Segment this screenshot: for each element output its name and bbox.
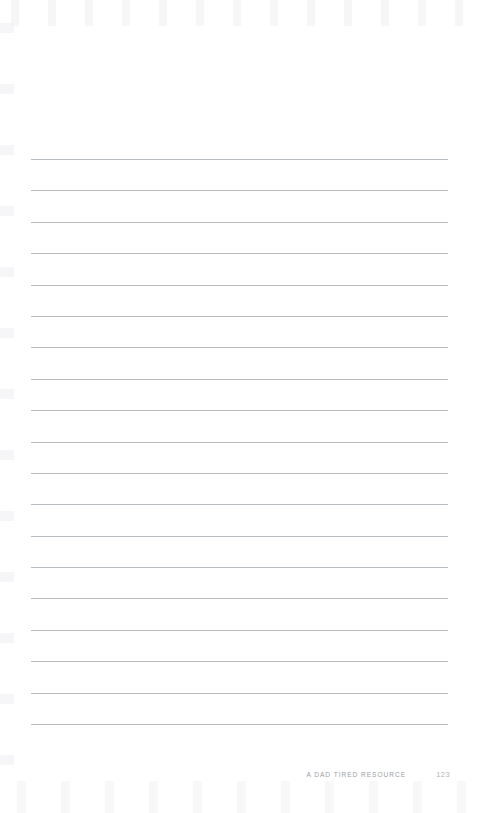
rule-line[interactable]	[31, 316, 448, 317]
page-footer: A DAD TIRED RESOURCE 123	[31, 770, 450, 779]
rule-line[interactable]	[31, 253, 448, 254]
rule-line[interactable]	[31, 536, 448, 537]
footer-resource-label: A DAD TIRED RESOURCE	[307, 771, 406, 778]
rule-line[interactable]	[31, 661, 448, 662]
rule-line[interactable]	[31, 504, 448, 505]
rule-line[interactable]	[31, 222, 448, 223]
ruled-lines-area[interactable]	[31, 159, 448, 725]
rule-line[interactable]	[31, 630, 448, 631]
rule-line[interactable]	[31, 567, 448, 568]
rule-line[interactable]	[31, 347, 448, 348]
rule-line[interactable]	[31, 410, 448, 411]
scan-artifact-bottom	[0, 781, 489, 813]
scan-artifact-top	[0, 0, 489, 26]
rule-line[interactable]	[31, 379, 448, 380]
page-number: 123	[434, 770, 450, 779]
rule-line[interactable]	[31, 724, 448, 725]
scan-artifact-left	[0, 0, 14, 813]
rule-line[interactable]	[31, 693, 448, 694]
rule-line[interactable]	[31, 598, 448, 599]
rule-line[interactable]	[31, 442, 448, 443]
rule-line[interactable]	[31, 285, 448, 286]
rule-line[interactable]	[31, 159, 448, 160]
rule-line[interactable]	[31, 473, 448, 474]
notes-page: A DAD TIRED RESOURCE 123	[0, 0, 489, 813]
rule-line[interactable]	[31, 190, 448, 191]
